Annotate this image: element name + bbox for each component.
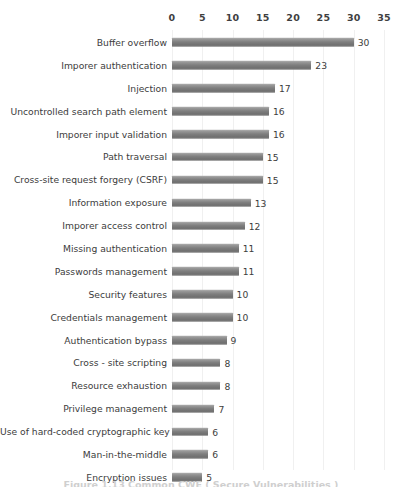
bar[interactable] [172,176,263,185]
bar[interactable] [172,427,208,436]
bar[interactable] [172,290,233,299]
bar[interactable] [172,61,311,70]
bar-row: Path traversal15 [0,145,402,168]
x-tick-25: 25 [317,12,331,23]
bar-value-label: 30 [358,37,370,48]
bar-row: Missing authentication11 [0,237,402,260]
bar-row: Imporer input validation16 [0,123,402,146]
bar-track: 30 [172,31,402,54]
bar[interactable] [172,336,227,345]
bar[interactable] [172,221,245,230]
figure-caption: Figure 1.13 Common CWE ( Secure Vulnerab… [0,479,402,487]
bar-track: 15 [172,145,402,168]
category-label: Resource exhaustion [0,380,167,391]
bar[interactable] [172,244,239,253]
bar-row: Imporer authentication23 [0,54,402,77]
bar-row: Information exposure13 [0,191,402,214]
bar-value-label: 23 [315,60,327,71]
bar-row: Man-in-the-middle6 [0,443,402,466]
category-label: Uncontrolled search path element [0,106,167,117]
bar[interactable] [172,267,239,276]
bar-track: 16 [172,123,402,146]
bar-track: 8 [172,374,402,397]
bar-track: 23 [172,54,402,77]
bar-track: 9 [172,329,402,352]
bar-value-label: 11 [243,243,255,254]
category-label: Privilege management [0,403,167,414]
bar[interactable] [172,38,354,47]
bar-row: Buffer overflow30 [0,31,402,54]
bar-value-label: 6 [212,449,218,460]
bar-value-label: 10 [237,289,249,300]
bar-value-label: 8 [224,357,230,368]
x-tick-10: 10 [226,12,240,23]
bar[interactable] [172,107,269,116]
bar-track: 16 [172,100,402,123]
bar-row: Injection17 [0,77,402,100]
chart-rows: Buffer overflow30Imporer authentication2… [0,31,402,487]
category-label: Credentials management [0,312,167,323]
bar-track: 11 [172,237,402,260]
bar[interactable] [172,130,269,139]
bar-value-label: 17 [279,83,291,94]
bar-row: Authentication bypass9 [0,329,402,352]
category-label: Buffer overflow [0,37,167,48]
category-label: Man-in-the-middle [0,449,167,460]
category-label: Imporer authentication [0,60,167,71]
bar-track: 7 [172,397,402,420]
bar-row: Passwords management11 [0,260,402,283]
bar-row: Imporer access control12 [0,214,402,237]
bar-value-label: 13 [255,197,267,208]
x-tick-30: 30 [347,12,361,23]
category-label: Information exposure [0,197,167,208]
bar-chart: 05101520253035 Buffer overflow30Imporer … [0,0,402,487]
category-label: Imporer access control [0,220,167,231]
x-tick-5: 5 [199,12,206,23]
bar-track: 6 [172,420,402,443]
bar[interactable] [172,450,208,459]
bar-track: 15 [172,168,402,191]
bar[interactable] [172,382,220,391]
bar-track: 11 [172,260,402,283]
bar-track: 12 [172,214,402,237]
bar-track: 10 [172,283,402,306]
bar[interactable] [172,198,251,207]
bar-value-label: 8 [224,380,230,391]
x-tick-15: 15 [256,12,270,23]
bar-value-label: 15 [267,151,279,162]
bar-row: Privilege management7 [0,397,402,420]
bar-value-label: 16 [273,106,285,117]
bar-value-label: 10 [237,312,249,323]
category-label: Passwords management [0,266,167,277]
x-tick-35: 35 [377,12,391,23]
x-axis-tick-labels: 05101520253035 [172,12,384,26]
bar-row: Cross - site scripting8 [0,351,402,374]
bar-row: Credentials management10 [0,306,402,329]
bar-track: 13 [172,191,402,214]
bar-value-label: 9 [231,335,237,346]
bar-row: Uncontrolled search path element16 [0,100,402,123]
bar-track: 6 [172,443,402,466]
bar[interactable] [172,404,214,413]
bar-value-label: 11 [243,266,255,277]
category-label: Missing authentication [0,243,167,254]
bar-value-label: 6 [212,426,218,437]
category-label: Security features [0,289,167,300]
bar-value-label: 15 [267,174,279,185]
category-label: Injection [0,83,167,94]
bar-value-label: 12 [249,220,261,231]
bar-track: 17 [172,77,402,100]
category-label: Authentication bypass [0,335,167,346]
x-tick-0: 0 [169,12,176,23]
bar-row: Cross-site request forgery (CSRF)15 [0,168,402,191]
bar-row: Resource exhaustion8 [0,374,402,397]
bar[interactable] [172,359,220,368]
category-label: Use of hard-coded cryptographic key [0,426,167,437]
x-tick-20: 20 [286,12,300,23]
bar-row: Use of hard-coded cryptographic key6 [0,420,402,443]
bar[interactable] [172,153,263,162]
bar-track: 8 [172,351,402,374]
category-label: Path traversal [0,151,167,162]
bar[interactable] [172,313,233,322]
bar[interactable] [172,84,275,93]
